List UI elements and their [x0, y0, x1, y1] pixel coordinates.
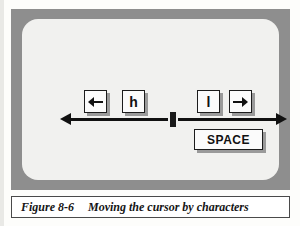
key-space: SPACE: [194, 129, 263, 150]
axis-right-arrowhead: [276, 113, 287, 125]
key-h: h: [122, 90, 145, 113]
cursor-block: [170, 112, 176, 127]
figure-frame: h l SPACE: [11, 9, 290, 190]
axis-right-shaft: [178, 118, 278, 121]
page-scan-edge: [0, 0, 4, 226]
figure-caption: Figure 8-6 Moving the cursor by characte…: [11, 196, 290, 218]
key-h-label: h: [129, 94, 138, 110]
right-arrow-icon: [233, 97, 248, 107]
key-space-label: SPACE: [207, 133, 250, 147]
key-l: l: [197, 90, 220, 113]
axis-left-shaft: [69, 118, 168, 121]
key-left-arrow: [84, 90, 107, 113]
key-right-arrow: [229, 90, 252, 113]
figure-caption-text: Moving the cursor by characters: [88, 200, 249, 215]
key-l-label: l: [207, 94, 211, 110]
figure-panel: h l SPACE: [22, 19, 279, 180]
left-arrow-icon: [88, 97, 103, 107]
figure-caption-label: Figure 8-6: [21, 200, 74, 215]
book-page-background: h l SPACE Figure 8-6 Moving the cursor b…: [0, 0, 300, 226]
